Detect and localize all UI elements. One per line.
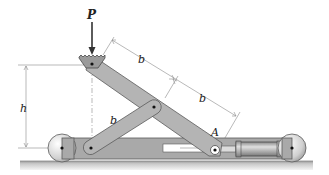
- load-label: P: [86, 8, 97, 22]
- pivot-A: [211, 146, 220, 155]
- pivot-A-label: A: [210, 126, 219, 139]
- height-dimension: [18, 65, 88, 148]
- short-link-b-label: b: [110, 114, 117, 127]
- left-wheel: [48, 134, 76, 162]
- height-label: h: [20, 102, 27, 115]
- ground: [20, 161, 313, 170]
- right-wheel: [278, 134, 306, 162]
- scissor-jack-diagram: h b b: [0, 0, 329, 175]
- load-arrow-icon: [89, 22, 96, 55]
- lower-b-label: b: [199, 92, 206, 105]
- upper-b-label: b: [138, 53, 145, 66]
